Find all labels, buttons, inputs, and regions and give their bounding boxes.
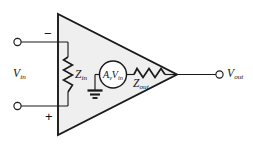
circuit-diagram-canvas: − + Vin Zin AvVin Zout Vout (0, 0, 253, 147)
noninverting-polarity-label: + (45, 110, 53, 123)
circuit-schematic-svg (0, 0, 253, 147)
input-voltage-base: V (13, 67, 20, 79)
noninverting-input-terminal-node[interactable] (14, 102, 21, 109)
output-voltage-label: Vout (227, 68, 243, 80)
input-impedance-label: Zin (75, 69, 87, 81)
input-voltage-sub: in (20, 73, 26, 81)
inverting-input-terminal-node[interactable] (14, 38, 21, 45)
inverting-polarity-label: − (44, 27, 52, 40)
input-impedance-base: Z (75, 68, 81, 80)
dependent-source-signal-sub: in (118, 74, 123, 81)
output-voltage-base: V (227, 67, 234, 79)
output-impedance-sub: out (140, 83, 149, 91)
output-voltage-sub: out (234, 73, 243, 81)
output-terminal-node[interactable] (216, 71, 223, 78)
output-impedance-label: Zout (133, 78, 149, 90)
input-impedance-sub: in (82, 74, 88, 82)
dependent-source-label: AvVin (103, 70, 123, 80)
input-voltage-label: Vin (13, 68, 26, 80)
output-impedance-base: Z (133, 77, 139, 89)
dependent-source-gain-sub: v (109, 74, 112, 81)
